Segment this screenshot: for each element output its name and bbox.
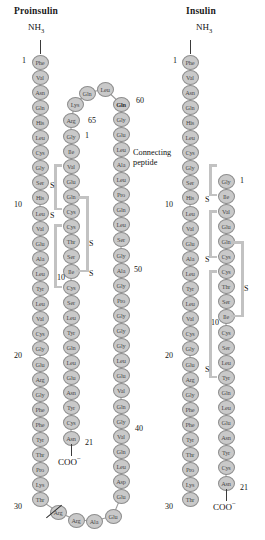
residue-insulin-achain-11: Cys <box>218 325 235 340</box>
residue-insulin-bchain-30: Thr <box>182 492 199 507</box>
number-a10-proinsulin: 10 <box>57 273 65 282</box>
residue-insulin-bchain-22: Arg <box>182 372 199 387</box>
disulfide-b7-a7-proinsulin-arm-top <box>54 164 62 167</box>
number-a10-insulin: 10 <box>211 318 219 327</box>
residue-proinsulin-achain-16: Leu <box>63 355 80 370</box>
disulfide-a6-a11-proinsulin-arm-top <box>76 196 86 199</box>
residue-proinsulin-achain-12: Ser <box>63 295 80 310</box>
residue-proinsulin-cp-33: Ala <box>86 514 103 529</box>
sulfur-label-i2: S <box>205 255 209 264</box>
residue-proinsulin-cp-11: Gly <box>113 248 130 263</box>
residue-proinsulin-cp-25: Leu <box>113 459 130 474</box>
residue-proinsulin-cp-12: Ala <box>113 263 130 278</box>
sulfur-label-p2: S <box>50 211 54 220</box>
disulfide-b7-a7-insulin-arm-top <box>209 164 217 167</box>
residue-insulin-achain-15: Gln <box>218 385 235 400</box>
residue-proinsulin-bchain-30: Thr <box>32 492 49 507</box>
residue-proinsulin-achain-19: Tyr <box>63 400 80 415</box>
number-50-proinsulin: 50 <box>134 265 142 274</box>
residue-insulin-achain-16: Leu <box>218 400 235 415</box>
residue-proinsulin-bchain-13: Glu <box>32 236 49 251</box>
residue-insulin-bchain-23: Gly <box>182 387 199 402</box>
residue-proinsulin-achain-3: Val <box>63 159 80 174</box>
residue-proinsulin-bchain-25: Phe <box>32 417 49 432</box>
disulfide-b19-a20-proinsulin-arm-top <box>54 224 62 227</box>
residue-proinsulin-achain-8: Thr <box>63 234 80 249</box>
residue-proinsulin-bchain-3: Asn <box>32 85 49 100</box>
residue-insulin-bchain-9: Ser <box>182 175 199 190</box>
sulfur-label-i4: S <box>244 284 248 293</box>
number-b30-proinsulin: 30 <box>14 502 22 511</box>
sulfur-label-p3: S <box>89 239 93 248</box>
residue-proinsulin-achain-17: Glu <box>63 370 80 385</box>
residue-insulin-achain-1: Gly <box>218 174 235 189</box>
disulfide-b19-a20-proinsulin-arm-bottom <box>54 286 62 289</box>
c-terminus-insulin: COO− <box>213 500 236 512</box>
residue-insulin-bchain-27: Thr <box>182 447 199 462</box>
residue-proinsulin-cp-8: Gln <box>113 202 130 217</box>
residue-insulin-bchain-3: Asn <box>182 85 199 100</box>
disulfide-a6-a11-insulin-arm-top <box>231 241 241 244</box>
disulfide-upper-insulin-arm-top <box>209 210 217 213</box>
residue-proinsulin-cp-5: Ala <box>113 157 130 172</box>
residue-insulin-bchain-8: Gly <box>182 160 199 175</box>
residue-insulin-achain-18: Asn <box>218 430 235 445</box>
disulfide-a6-a11-insulin <box>241 241 244 317</box>
disulfide-a6-a11-insulin-arm-bottom <box>231 315 241 318</box>
disulfide-b19-a20-insulin <box>209 270 212 378</box>
residue-proinsulin-bchain-23: Gly <box>32 387 49 402</box>
residue-proinsulin-achain-13: Leu <box>63 310 80 325</box>
residue-insulin-achain-13: Leu <box>218 355 235 370</box>
residue-proinsulin-achain-14: Tyr <box>63 325 80 340</box>
residue-proinsulin-cp-19: Glu <box>113 368 130 383</box>
number-b1-proinsulin: 1 <box>22 56 26 65</box>
residue-insulin-bchain-4: Gln <box>182 100 199 115</box>
residue-insulin-bchain-18: Val <box>182 311 199 326</box>
residue-proinsulin-bchain-8: Gly <box>32 160 49 175</box>
residue-insulin-bchain-5: His <box>182 115 199 130</box>
residue-proinsulin-bchain-6: Leu <box>32 130 49 145</box>
residue-insulin-bchain-13: Glu <box>182 236 199 251</box>
residue-proinsulin-cp-16: Gly <box>113 323 130 338</box>
sulfur-label-i1: S <box>205 195 209 204</box>
residue-proinsulin-bchain-16: Tyr <box>32 281 49 296</box>
n-terminus-proinsulin: NH3 <box>28 22 44 34</box>
n-terminus-insulin: NH3 <box>196 22 212 34</box>
residue-proinsulin-achain-15: Gln <box>63 340 80 355</box>
residue-insulin-bchain-2: Val <box>182 70 199 85</box>
residue-proinsulin-cp-13: Gly <box>113 278 130 293</box>
disulfide-a6-a11-proinsulin-arm-bottom <box>76 270 86 273</box>
residue-insulin-bchain-17: Leu <box>182 296 199 311</box>
residue-insulin-bchain-11: Leu <box>182 206 199 221</box>
residue-proinsulin-cp-6: Leu <box>113 172 130 187</box>
residue-proinsulin-crown-leu: Leu <box>97 82 114 97</box>
residue-proinsulin-cp-26: Asp <box>113 474 130 489</box>
residue-proinsulin-cp-14: Pro <box>113 293 130 308</box>
c-terminus-proinsulin: COO− <box>58 455 81 467</box>
residue-proinsulin-cp-2: Gly <box>113 112 130 127</box>
residue-insulin-achain-9: Ser <box>218 294 235 309</box>
residue-insulin-bchain-7: Cys <box>182 145 199 160</box>
disulfide-b19-a20-insulin-arm-top <box>209 270 217 273</box>
residue-proinsulin-bchain-7: Cys <box>32 145 49 160</box>
residue-proinsulin-bchain-17: Leu <box>32 296 49 311</box>
residue-insulin-achain-20: Cys <box>218 460 235 475</box>
residue-proinsulin-cp-24: Gln <box>113 444 130 459</box>
residue-proinsulin-cp-1: Gln <box>113 97 130 112</box>
residue-insulin-achain-19: Tyr <box>218 445 235 460</box>
residue-proinsulin-bchain-10: His <box>32 190 49 205</box>
residue-proinsulin-achain-1: Gly <box>63 129 80 144</box>
sulfur-label-i3: S <box>205 365 209 374</box>
disulfide-upper-insulin-arm-bottom <box>209 256 217 259</box>
residue-insulin-bchain-24: Phe <box>182 402 199 417</box>
residue-proinsulin-cp-9: Leu <box>113 217 130 232</box>
residue-proinsulin-achain-6: Cys <box>63 204 80 219</box>
residue-proinsulin-cp-32: Glu <box>105 509 122 524</box>
disulfide-b19-a20-proinsulin <box>54 224 57 288</box>
residue-insulin-achain-17: Glu <box>218 415 235 430</box>
residue-proinsulin-bchain-11: Leu <box>32 206 49 221</box>
residue-proinsulin-bchain-4: Gln <box>32 100 49 115</box>
residue-proinsulin-bchain-26: Tyr <box>32 432 49 447</box>
residue-proinsulin-cp-4: Leu <box>113 142 130 157</box>
residue-proinsulin-bchain-14: Ala <box>32 251 49 266</box>
